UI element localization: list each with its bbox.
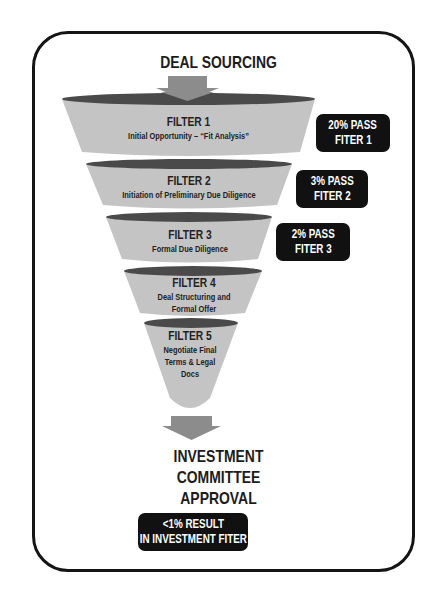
- filter-1-title: FILTER 1: [101, 115, 276, 130]
- filter-2-label: FILTER 2 Initiation of Preliminary Due D…: [96, 174, 282, 201]
- filter-2-pass-badge: 3% PASS FITER 2: [296, 170, 368, 208]
- arrow-down-icon: [162, 416, 221, 440]
- badge-line: 2% PASS: [291, 227, 334, 242]
- filter-4-label: FILTER 4 Deal Structuring and Formal Off…: [126, 276, 262, 315]
- filter-4-title: FILTER 4: [138, 276, 250, 291]
- approval-title-line: APPROVAL: [39, 488, 397, 509]
- filter-4-description-line: Formal Offer: [141, 303, 247, 315]
- badge-line: FITER 3: [295, 242, 332, 257]
- filter-4-description-line: Deal Structuring and: [141, 291, 247, 303]
- filter-3-pass-badge: 2% PASS FITER 3: [276, 223, 350, 261]
- filter-1-label: FILTER 1 Initial Opportunity – “Fit Anal…: [82, 115, 295, 142]
- approval-title-line: INVESTMENT: [39, 446, 397, 467]
- badge-line: <1% RESULT: [162, 517, 223, 532]
- filter-1-pass-badge: 20% PASS FITER 1: [316, 114, 390, 152]
- filter-5-description-line: Negotiate Final: [151, 344, 229, 356]
- badge-line: FITER 2: [314, 189, 351, 204]
- filter-2-description: Initiation of Preliminary Due Diligence: [116, 189, 261, 201]
- filter-3-label: FILTER 3 Formal Due Diligence: [110, 228, 270, 255]
- badge-line: 3% PASS: [310, 174, 353, 189]
- badge-line: 20% PASS: [329, 118, 377, 133]
- investment-committee-approval-title: INVESTMENT COMMITTEE APPROVAL: [0, 446, 437, 509]
- filter-5-description-line: Docs: [151, 368, 229, 380]
- investment-result-badge: <1% RESULT IN INVESTMENT FITER: [138, 513, 248, 551]
- badge-line: FITER 1: [335, 133, 372, 148]
- filter-5-title: FILTER 5: [149, 329, 231, 344]
- filter-5-label: FILTER 5 Negotiate Final Terms & Legal D…: [140, 329, 240, 380]
- filter-1-description: Initial Opportunity – “Fit Analysis”: [105, 130, 271, 142]
- badge-line: IN INVESTMENT FITER: [139, 532, 246, 547]
- approval-title-line: COMMITTEE: [39, 467, 397, 488]
- filter-3-title: FILTER 3: [124, 228, 255, 243]
- filter-5-description-line: Terms & Legal: [151, 356, 229, 368]
- filter-3-description: Formal Due Diligence: [128, 243, 253, 255]
- filter-2-title: FILTER 2: [113, 174, 266, 189]
